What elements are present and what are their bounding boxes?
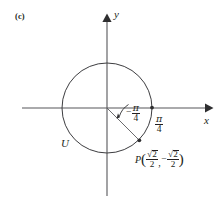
negative-angle-label: −π4 xyxy=(126,104,140,125)
y-axis xyxy=(102,14,111,197)
point-close-paren: ) xyxy=(179,151,184,167)
reference-angle-label: π4 xyxy=(155,115,163,136)
sqrt-icon: √2 xyxy=(168,150,178,160)
point-p-label: P(√22,−√22) xyxy=(135,151,184,171)
point-y-fraction: √22 xyxy=(167,150,179,170)
part-label: (c) xyxy=(15,12,25,21)
trig-unit-circle-figure: (c) y x U −π4 π4 P(√22,−√22) xyxy=(0,0,221,208)
sqrt-overbar xyxy=(152,150,158,151)
x-axis xyxy=(22,103,214,112)
sqrt-overbar xyxy=(173,150,179,151)
x-axis-intersection-dot xyxy=(150,106,154,110)
y-axis-arrowhead xyxy=(102,14,111,23)
circle-name-label: U xyxy=(61,138,69,149)
sqrt-icon: √2 xyxy=(147,150,157,160)
point-x-fraction: √22 xyxy=(146,150,158,170)
point-y-denominator: 2 xyxy=(167,159,179,170)
point-x-numerator: √2 xyxy=(146,150,158,160)
angle-numerator: π xyxy=(132,103,140,113)
angle-fraction: π4 xyxy=(132,103,140,124)
reference-angle-denominator: 4 xyxy=(155,124,163,135)
angle-denominator: 4 xyxy=(132,113,140,124)
x-axis-arrowhead xyxy=(205,103,214,112)
figure-canvas xyxy=(0,0,221,208)
point-x-denominator: 2 xyxy=(146,159,158,170)
reference-angle-numerator: π xyxy=(155,114,163,124)
point-p-dot xyxy=(137,138,141,142)
x-axis-label: x xyxy=(204,115,209,126)
y-axis-label: y xyxy=(114,9,119,20)
point-y-numerator: √2 xyxy=(167,150,179,160)
reference-angle-fraction: π4 xyxy=(155,114,163,135)
